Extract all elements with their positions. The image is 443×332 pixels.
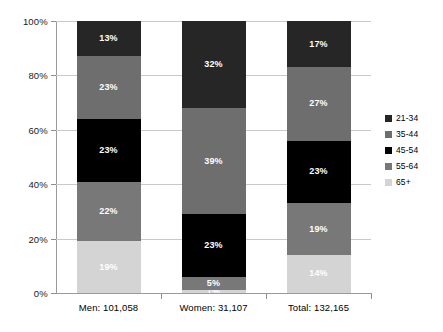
bar-segment-label: 17% <box>309 40 328 49</box>
bar-segment-label: 1% <box>207 290 220 293</box>
bar-segment-label: 32% <box>204 60 223 69</box>
y-tick-label: 40% <box>28 179 48 190</box>
legend-item[interactable]: 35-44 <box>385 127 418 141</box>
legend-item[interactable]: 55-64 <box>385 159 418 173</box>
bar-segment-label: 14% <box>309 269 328 278</box>
bar-segment[interactable]: 19% <box>287 203 351 255</box>
y-tick-mark <box>51 293 56 294</box>
y-tick-mark <box>51 184 56 185</box>
y-tick-label: 0% <box>34 288 48 299</box>
category-label: Men: 101,058 <box>56 302 161 313</box>
legend-item[interactable]: 65+ <box>385 175 418 189</box>
bar-stack: 13%23%23%22%19% <box>77 21 141 293</box>
bar-segment[interactable]: 1% <box>182 290 246 293</box>
legend-item[interactable]: 21-34 <box>385 111 418 125</box>
bar-segment[interactable]: 17% <box>287 21 351 67</box>
y-tick-label: 60% <box>28 124 48 135</box>
legend-item[interactable]: 45-54 <box>385 143 418 157</box>
plot-area: 0%20%40%60%80%100% 13%23%23%22%19%32%39%… <box>56 21 371 293</box>
x-axis-line <box>56 293 372 294</box>
bar-stack: 17%27%23%19%14% <box>287 21 351 293</box>
bar-segment[interactable]: 27% <box>287 67 351 140</box>
bar-segment-label: 19% <box>99 263 118 272</box>
bar-segment-label: 27% <box>309 99 328 108</box>
category-label: Total: 132,165 <box>266 302 371 313</box>
bar-segment-label: 19% <box>309 225 328 234</box>
y-tick-label: 100% <box>23 16 48 27</box>
bar-segment[interactable]: 23% <box>287 141 351 204</box>
legend-swatch <box>385 131 392 138</box>
bar-segment[interactable]: 39% <box>182 108 246 214</box>
bar-segment-label: 23% <box>99 146 118 155</box>
legend-label: 65+ <box>396 177 411 187</box>
bar-segment[interactable]: 32% <box>182 21 246 108</box>
bar-segment[interactable]: 13% <box>77 21 141 56</box>
x-tick-mark <box>161 294 162 299</box>
legend-swatch <box>385 163 392 170</box>
legend: 21-3435-4445-5455-6465+ <box>385 111 418 191</box>
legend-swatch <box>385 147 392 154</box>
bar-segment-label: 23% <box>309 167 328 176</box>
bar-segment[interactable]: 5% <box>182 277 246 291</box>
bar-segment[interactable]: 23% <box>182 214 246 277</box>
bar-segment-label: 23% <box>99 83 118 92</box>
bar-segment-label: 22% <box>99 207 118 216</box>
bar-segment[interactable]: 23% <box>77 119 141 182</box>
bar-segment-label: 23% <box>204 241 223 250</box>
bar-segment[interactable]: 23% <box>77 56 141 119</box>
y-tick-mark <box>51 239 56 240</box>
bar-segment-label: 5% <box>207 279 220 288</box>
legend-swatch <box>385 115 392 122</box>
legend-label: 55-64 <box>396 161 418 171</box>
bar-segment[interactable]: 22% <box>77 182 141 242</box>
stacked-bar-chart: 0%20%40%60%80%100% 13%23%23%22%19%32%39%… <box>0 0 443 332</box>
bar-segment[interactable]: 19% <box>77 241 141 293</box>
bar-segment-label: 13% <box>99 34 118 43</box>
y-tick-label: 80% <box>28 70 48 81</box>
y-tick-mark <box>51 21 56 22</box>
x-tick-mark <box>371 294 372 299</box>
bar-segment-label: 39% <box>204 157 223 166</box>
y-tick-mark <box>51 130 56 131</box>
y-tick-label: 20% <box>28 233 48 244</box>
legend-swatch <box>385 179 392 186</box>
legend-label: 45-54 <box>396 145 418 155</box>
legend-label: 21-34 <box>396 113 418 123</box>
bar-segment[interactable]: 14% <box>287 255 351 293</box>
bar-group: 17%27%23%19%14% <box>287 21 351 293</box>
bar-stack: 32%39%23%5%1% <box>182 21 246 293</box>
legend-label: 35-44 <box>396 129 418 139</box>
category-label: Women: 31,107 <box>161 302 266 313</box>
y-tick-mark <box>51 75 56 76</box>
bar-group: 13%23%23%22%19% <box>77 21 141 293</box>
x-tick-mark <box>266 294 267 299</box>
bar-group: 32%39%23%5%1% <box>182 21 246 293</box>
